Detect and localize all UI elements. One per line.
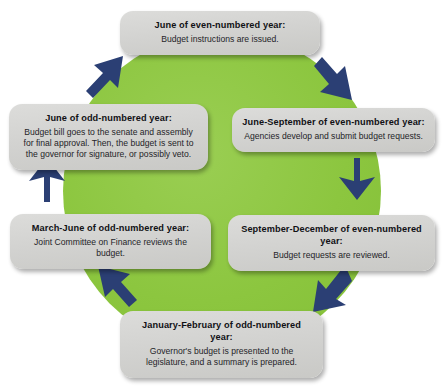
step-title-january-february-odd: January-February of odd-numbered year: bbox=[130, 320, 313, 344]
budget-cycle-diagram: June of even-numbered year: Budget instr… bbox=[0, 0, 443, 387]
step-body-june-odd: Budget bill goes to the senate and assem… bbox=[19, 127, 198, 160]
step-box-march-june-odd[interactable]: March-June of odd-numbered year: Joint C… bbox=[10, 214, 211, 269]
step-title-june-odd: June of odd-numbered year: bbox=[19, 113, 198, 125]
step-box-june-even[interactable]: June of even-numbered year: Budget instr… bbox=[120, 11, 320, 55]
step-body-june-even: Budget instructions are issued. bbox=[130, 34, 310, 45]
step-title-june-september-even: June-September of even-numbered year: bbox=[242, 117, 425, 129]
step-title-march-june-odd: March-June of odd-numbered year: bbox=[20, 223, 201, 235]
step-box-january-february-odd[interactable]: January-February of odd-numbered year: G… bbox=[120, 311, 323, 378]
cycle-center-circle bbox=[63, 32, 381, 350]
step-box-june-odd[interactable]: June of odd-numbered year: Budget bill g… bbox=[9, 104, 208, 170]
step-body-june-september-even: Agencies develop and submit budget reque… bbox=[242, 131, 425, 142]
step-box-september-december-even[interactable]: September-December of even-numbered year… bbox=[228, 215, 435, 271]
step-body-january-february-odd: Governor's budget is presented to the le… bbox=[130, 346, 313, 368]
step-box-june-september-even[interactable]: June-September of even-numbered year: Ag… bbox=[232, 108, 435, 152]
step-body-march-june-odd: Joint Committee on Finance reviews the b… bbox=[20, 237, 201, 259]
step-title-september-december-even: September-December of even-numbered year… bbox=[238, 224, 425, 248]
step-title-june-even: June of even-numbered year: bbox=[130, 20, 310, 32]
step-body-september-december-even: Budget requests are reviewed. bbox=[238, 250, 425, 261]
